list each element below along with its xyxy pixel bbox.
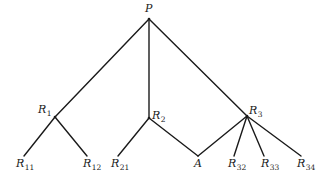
label-R33: R33 [261,158,279,172]
label-R21: R21 [111,158,129,172]
edge-R2-R21 [118,118,149,156]
label-R32: R32 [228,158,246,172]
label-R34: R34 [297,158,315,172]
node-junctions [54,18,249,120]
label-R11: R11 [16,158,34,172]
node-R2 [148,117,151,120]
label-R1: R1 [38,104,52,118]
label-A: A [194,158,202,169]
edge-R1-R12 [55,117,87,156]
edge-R3-A [198,116,247,156]
edges [24,19,301,156]
edge-P-R1 [55,19,149,117]
label-R3: R3 [249,105,263,119]
edge-P-R3 [149,19,247,116]
node-P [148,18,151,21]
node-R3 [246,115,249,118]
edge-R2-A [149,118,198,156]
tree-diagram [0,0,333,178]
label-P: P [145,3,152,14]
label-R12: R12 [83,158,101,172]
edge-R1-R11 [24,117,55,156]
label-R2: R2 [152,110,166,124]
node-R1 [54,116,57,119]
